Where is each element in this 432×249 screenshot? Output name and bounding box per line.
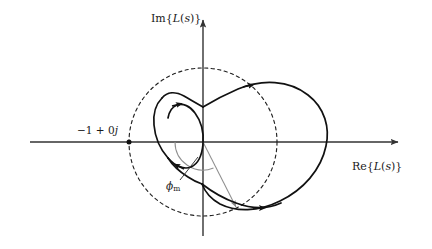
arrow-inner-upper-icon	[172, 104, 180, 106]
real-axis-label-prefix: Re{	[352, 160, 374, 173]
locus-outer-lobe	[202, 82, 327, 209]
real-axis-label-var: L	[374, 160, 381, 173]
phase-margin-subscript: m	[173, 184, 180, 193]
locus-lower-sweep	[202, 184, 281, 208]
critical-point-marker	[127, 140, 132, 145]
locus-direction-arrows	[172, 85, 263, 208]
gain-crossover-ray	[203, 142, 236, 207]
arrow-upper-right-icon	[243, 85, 252, 87]
imaginary-axis-label: Im{L(s)}	[151, 12, 201, 25]
imaginary-axis-label-prefix: Im{	[151, 12, 173, 25]
real-axis-label: Re{L(s)}	[352, 160, 402, 173]
locus-inner-loop-upper	[154, 98, 168, 158]
critical-point-label-imag-unit: j	[115, 124, 118, 136]
critical-point-label: −1 + 0j	[77, 124, 118, 136]
imaginary-axis-label-paren-close: )}	[190, 12, 201, 25]
real-axis-label-paren-close: )}	[391, 160, 402, 173]
locus-inner-loop-lower	[168, 104, 203, 168]
nyquist-plot-canvas	[0, 0, 432, 249]
imaginary-axis-label-var: L	[173, 12, 180, 25]
critical-point-label-real: −1 + 0	[77, 124, 115, 136]
nyquist-plot-figure: Im{L(s)} Re{L(s)} −1 + 0j ϕm	[0, 0, 432, 249]
phase-margin-label: ϕm	[166, 180, 180, 193]
